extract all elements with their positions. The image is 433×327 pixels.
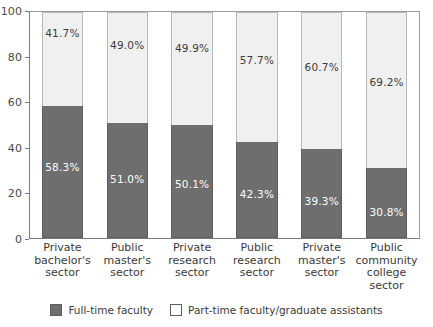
bar-value-label: 42.3% xyxy=(240,189,274,200)
y-tick-label-20: 20 xyxy=(8,188,22,199)
bar-segment-full-time[interactable]: 50.1% xyxy=(171,125,212,238)
x-axis-label: Publicresearchsector xyxy=(224,242,289,292)
bar-value-label: 57.7% xyxy=(240,55,274,66)
bar-stack[interactable]: 60.7%39.3% xyxy=(301,12,342,238)
bar-stack[interactable]: 41.7%58.3% xyxy=(42,12,83,238)
legend-label-part-time-faculty: Part-time faculty/graduate assistants xyxy=(188,304,383,316)
y-tick-label-40: 40 xyxy=(8,142,22,153)
bar-value-label: 60.7% xyxy=(305,62,339,73)
bar-slot: 57.7%42.3% xyxy=(224,12,289,238)
x-axis-label: Privatemaster'ssector xyxy=(289,242,354,292)
bar-stack[interactable]: 49.0%51.0% xyxy=(107,12,148,238)
bar-slot: 69.2%30.8% xyxy=(354,12,419,238)
bar-segment-part-time[interactable]: 57.7% xyxy=(236,12,277,142)
x-axis-label-line: Private xyxy=(161,242,224,255)
x-axis-label-line: Public xyxy=(355,242,418,255)
bar-segment-part-time[interactable]: 41.7% xyxy=(42,12,83,106)
x-axis-label-line: Public xyxy=(96,242,159,255)
bar-value-label: 69.2% xyxy=(369,77,403,88)
x-axis-label: Publiccommunitycollegesector xyxy=(354,242,419,292)
bar-segment-full-time[interactable]: 42.3% xyxy=(236,142,277,238)
x-axis-label: Publicmaster'ssector xyxy=(95,242,160,292)
bar-value-label: 39.3% xyxy=(305,196,339,207)
x-axis-label-line: sector xyxy=(31,267,94,280)
bar-value-label: 58.3% xyxy=(45,162,79,173)
bars-container: 41.7%58.3%49.0%51.0%49.9%50.1%57.7%42.3%… xyxy=(30,12,419,238)
bar-value-label: 41.7% xyxy=(45,28,79,39)
bar-value-label: 30.8% xyxy=(369,207,403,218)
bar-slot: 49.9%50.1% xyxy=(160,12,225,238)
x-axis-label-line: Private xyxy=(31,242,94,255)
x-axis-label-line: Public xyxy=(225,242,288,255)
legend-item-part-time-faculty[interactable]: Part-time faculty/graduate assistants xyxy=(170,304,383,316)
legend: Full-time faculty Part-time faculty/grad… xyxy=(0,304,433,316)
legend-item-full-time-faculty[interactable]: Full-time faculty xyxy=(50,304,153,316)
bar-value-label: 50.1% xyxy=(175,179,209,190)
bar-segment-part-time[interactable]: 60.7% xyxy=(301,12,342,149)
y-tick-label-0: 0 xyxy=(15,234,22,245)
bar-value-label: 51.0% xyxy=(110,174,144,185)
legend-label-full-time-faculty: Full-time faculty xyxy=(68,304,153,316)
bar-value-label: 49.0% xyxy=(110,40,144,51)
x-axis-label-line: sector xyxy=(96,267,159,280)
bar-slot: 41.7%58.3% xyxy=(30,12,95,238)
bar-segment-full-time[interactable]: 51.0% xyxy=(107,123,148,238)
bar-segment-part-time[interactable]: 49.0% xyxy=(107,12,148,123)
bar-segment-part-time[interactable]: 69.2% xyxy=(366,12,407,168)
white-swatch-icon xyxy=(170,304,182,316)
x-axis-label: Privateresearchsector xyxy=(160,242,225,292)
y-tick-label-80: 80 xyxy=(8,51,22,62)
y-tick-label-100: 100 xyxy=(1,6,22,17)
bar-slot: 60.7%39.3% xyxy=(289,12,354,238)
bar-segment-part-time[interactable]: 49.9% xyxy=(171,12,212,125)
y-axis: 100 80 60 40 20 0 xyxy=(0,11,29,240)
bar-stack[interactable]: 69.2%30.8% xyxy=(366,12,407,238)
bar-stack[interactable]: 57.7%42.3% xyxy=(236,12,277,238)
x-axis-label-line: sector xyxy=(290,267,353,280)
x-axis-label-line: sector xyxy=(161,267,224,280)
x-axis-labels: Privatebachelor'ssectorPublicmaster'ssec… xyxy=(30,242,419,292)
bar-value-label: 49.9% xyxy=(175,43,209,54)
bar-segment-full-time[interactable]: 30.8% xyxy=(366,168,407,238)
bar-slot: 49.0%51.0% xyxy=(95,12,160,238)
x-axis-label-line: sector xyxy=(225,267,288,280)
bar-segment-full-time[interactable]: 58.3% xyxy=(42,106,83,238)
bar-stack[interactable]: 49.9%50.1% xyxy=(171,12,212,238)
x-axis-label: Privatebachelor'ssector xyxy=(30,242,95,292)
x-axis-label-line: Private xyxy=(290,242,353,255)
dark-gray-swatch-icon xyxy=(50,304,62,316)
y-tick-label-60: 60 xyxy=(8,97,22,108)
x-axis-label-line: sector xyxy=(355,280,418,293)
stacked-bar-chart: 100 80 60 40 20 0 41.7%58.3%49.0%51.0%49… xyxy=(0,0,433,327)
bar-segment-full-time[interactable]: 39.3% xyxy=(301,149,342,238)
x-axis-label-line: college xyxy=(355,267,418,280)
y-tick-mark xyxy=(25,239,29,240)
